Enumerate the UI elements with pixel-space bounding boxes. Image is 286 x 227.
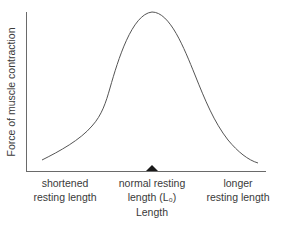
x-tick-longer-line2: resting length [206, 191, 269, 203]
x-tick-longer-line1: longer [223, 177, 253, 189]
optimal-length-marker-icon [146, 165, 158, 171]
x-tick-shortened-line2: resting length [33, 191, 96, 203]
length-tension-curve [42, 12, 258, 163]
x-tick-shortened-line1: shortened [42, 177, 89, 189]
x-axis-label: Length [136, 206, 168, 218]
x-tick-normal-line1: normal resting [119, 177, 186, 189]
length-tension-chart: Force of muscle contraction shortened re… [0, 0, 286, 227]
x-tick-normal-line2: length (L₀) [128, 191, 177, 203]
y-axis-label: Force of muscle contraction [5, 27, 17, 156]
